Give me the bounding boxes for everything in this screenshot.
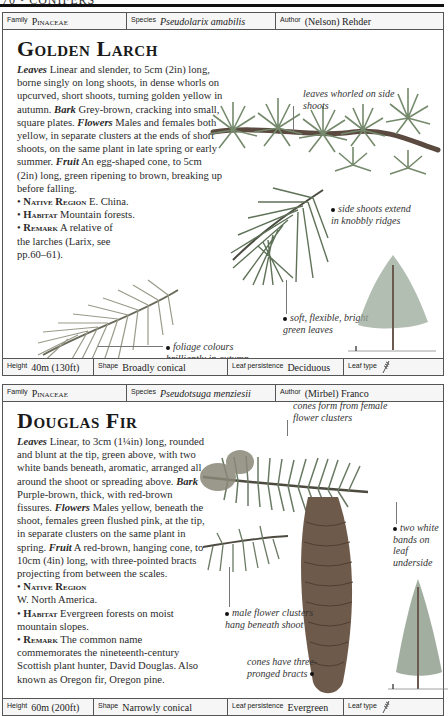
persistence-cell: Leaf persistence Deciduous xyxy=(228,359,344,375)
height-cell: Height 60m (200ft) xyxy=(3,699,94,715)
shape-value: Broadly conical xyxy=(122,362,186,373)
family-label: Family xyxy=(7,16,28,23)
family-cell: Family Pinaceae xyxy=(3,385,127,401)
caption-cones-form: cones form from female flower clusters xyxy=(293,400,403,423)
species-title: Douglas Fir xyxy=(17,408,137,434)
entry-golden-larch: Family Pinaceae Species Pseudolarix amab… xyxy=(2,12,444,376)
species-title: Golden Larch xyxy=(17,36,158,62)
leaftype-label: Leaf type xyxy=(348,702,377,709)
native-region-bullet: • Native Region E. China. xyxy=(17,195,223,208)
habitat-bullet: • Habitat Mountain forests. xyxy=(17,208,223,221)
leader-line xyxy=(396,502,397,524)
leader-line xyxy=(287,420,288,436)
leaftype-cell: Leaf type xyxy=(344,699,443,715)
persistence-value: Deciduous xyxy=(287,362,330,373)
persistence-label: Leaf persistence xyxy=(232,362,283,369)
leader-line xyxy=(98,346,163,347)
entry-content: Golden Larch Leaves Linear and slender, … xyxy=(2,30,444,358)
larch-shoot-illustration xyxy=(213,180,343,290)
family-cell: Family Pinaceae xyxy=(3,13,127,29)
height-value: 60m (200ft) xyxy=(31,702,79,713)
author-cell: Author (Nelson) Rehder xyxy=(276,13,443,29)
leaves-heading: Leaves xyxy=(17,436,47,447)
height-label: Height xyxy=(7,362,27,369)
shape-label: Shape xyxy=(98,702,118,709)
author-label: Author xyxy=(280,388,301,395)
leaftype-label: Leaf type xyxy=(348,362,377,369)
caption-side-shoots: side shoots extend in knobbly ridges xyxy=(331,203,421,226)
male-flower-shoot-illustration xyxy=(203,522,293,582)
leaves-heading: Leaves xyxy=(17,64,47,75)
bark-heading: Bark xyxy=(54,104,76,115)
flowers-heading: Flowers xyxy=(55,502,90,513)
flowers-heading: Flowers xyxy=(77,117,112,128)
height-value: 40m (130ft) xyxy=(31,362,79,373)
leaftype-cell: Leaf type xyxy=(344,359,443,375)
remark-bullet: • Remark A relative of the larches (Lari… xyxy=(17,221,127,261)
shape-value: Narrowly conical xyxy=(122,702,192,713)
douglas-fir-tree-illustration xyxy=(388,577,448,697)
shape-label: Shape xyxy=(98,362,118,369)
species-cell: Species Pseudotsuga menziesii xyxy=(127,385,276,401)
author-value: (Nelson) Rehder xyxy=(305,16,371,27)
author-cell: Author (Mirbel) Franco xyxy=(276,385,443,401)
caption-three-pronged-bracts: cones have three-pronged bracts xyxy=(247,656,327,679)
shape-cell: Shape Broadly conical xyxy=(94,359,228,375)
entry-douglas-fir: Family Pinaceae Species Pseudotsuga menz… xyxy=(2,384,444,715)
remark-bullet: • Remark The common name commemorates th… xyxy=(17,633,207,686)
golden-larch-tree-illustration xyxy=(348,250,438,360)
larch-branch-illustration xyxy=(203,70,443,170)
family-label: Family xyxy=(7,388,28,395)
species-label: Species xyxy=(131,388,156,395)
needle-leaf-icon xyxy=(381,360,391,374)
family-value: Pinaceae xyxy=(32,16,68,27)
entry-content: Douglas Fir Leaves Linear, to 3cm (1¼in)… xyxy=(2,402,444,698)
leader-line xyxy=(229,567,230,607)
habitat-bullet: • Habitat Evergreen forests on moist mou… xyxy=(17,607,207,633)
larch-autumn-illustration xyxy=(28,275,188,370)
caption-two-white-bands: two white bands on leaf underside xyxy=(393,522,443,568)
species-value: Pseudolarix amabilis xyxy=(160,16,245,27)
description: Leaves Linear, to 3cm (1¼in) long, round… xyxy=(17,435,207,686)
height-cell: Height 40m (130ft) xyxy=(3,359,94,375)
persistence-label: Leaf persistence xyxy=(232,702,283,709)
leader-line xyxy=(286,280,287,314)
description: Leaves Linear and slender, to 5cm (2in) … xyxy=(17,63,223,261)
family-value: Pinaceae xyxy=(32,388,68,399)
native-region-bullet: • Native RegionW. North America. xyxy=(17,580,207,606)
author-value: (Mirbel) Franco xyxy=(305,388,369,399)
height-label: Height xyxy=(7,702,27,709)
entry-header-bar: Family Pinaceae Species Pseudolarix amab… xyxy=(2,12,444,30)
entry-footer-bar: Height 40m (130ft) Shape Broadly conical… xyxy=(2,358,444,376)
leader-line xyxy=(293,106,294,132)
fruit-heading: Fruit xyxy=(49,542,72,553)
author-label: Author xyxy=(280,16,301,23)
species-cell: Species Pseudolarix amabilis xyxy=(127,13,276,29)
species-label: Species xyxy=(131,16,156,23)
persistence-cell: Leaf persistence Evergreen xyxy=(228,699,344,715)
species-value: Pseudotsuga menziesii xyxy=(160,388,251,399)
fruit-heading: Fruit xyxy=(56,156,79,167)
needle-leaf-icon xyxy=(381,700,391,714)
caption-male-flowers: male flower clusters hang beneath shoot xyxy=(225,607,315,630)
bark-heading: Bark xyxy=(176,476,198,487)
caption-leaves-whorled: leaves whorled on side shoots xyxy=(303,88,403,111)
entry-footer-bar: Height 60m (200ft) Shape Narrowly conica… xyxy=(2,698,444,716)
persistence-value: Evergreen xyxy=(287,702,328,713)
top-rule xyxy=(0,4,444,7)
shape-cell: Shape Narrowly conical xyxy=(94,699,228,715)
